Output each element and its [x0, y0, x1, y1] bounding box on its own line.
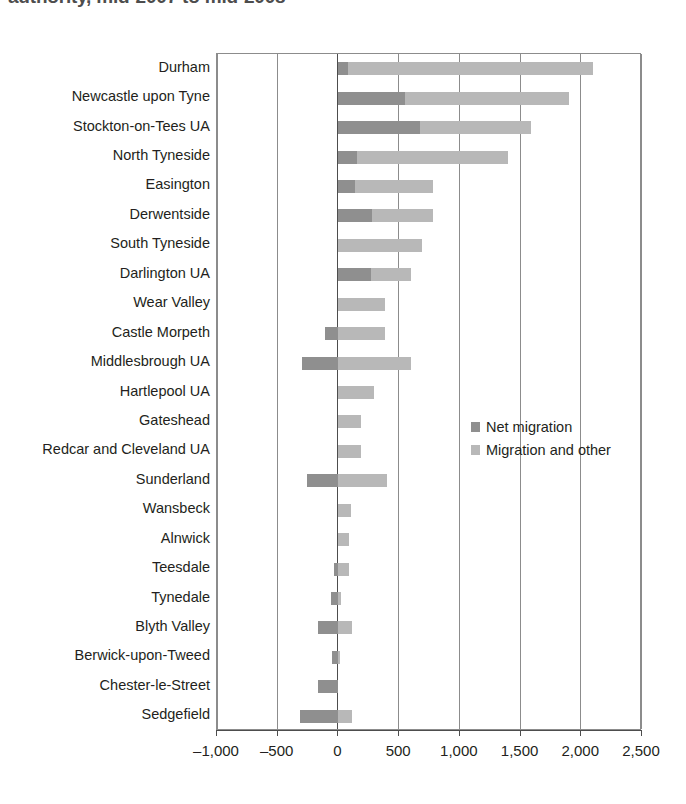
x-axis-tick-label: 1,000	[440, 742, 478, 759]
bar-segment-net-migration	[300, 710, 339, 723]
category-label: Berwick-upon-Tweed	[0, 647, 216, 663]
category-label: Derwentside	[0, 206, 216, 222]
category-label: Middlesbrough UA	[0, 353, 216, 369]
category-label: Redcar and Cleveland UA	[0, 441, 216, 457]
bar-segment-net-migration	[338, 209, 372, 222]
x-axis-tick-label: 500	[386, 742, 411, 759]
category-label: Stockton-on-Tees UA	[0, 118, 216, 134]
bar-segment-net-migration	[338, 62, 348, 75]
x-axis-tick	[641, 730, 642, 736]
legend: Net migrationMigration and other	[471, 419, 611, 465]
category-label: Newcastle upon Tyne	[0, 88, 216, 104]
category-label: Easington	[0, 176, 216, 192]
category-label: Gateshead	[0, 412, 216, 428]
bar-segment-migration-and-other	[338, 298, 384, 311]
category-label: Wear Valley	[0, 294, 216, 310]
legend-swatch-icon	[471, 445, 480, 455]
bar-segment-net-migration	[338, 268, 371, 281]
bar-segment-migration-and-other	[338, 151, 508, 164]
category-label: Darlington UA	[0, 265, 216, 281]
bar-segment-migration-and-other	[338, 239, 422, 252]
category-label: Castle Morpeth	[0, 324, 216, 340]
x-axis-tick-label: 2,000	[562, 742, 600, 759]
category-label: Durham	[0, 59, 216, 75]
category-label: Teesdale	[0, 559, 216, 575]
x-axis-tick-label: –1,000	[193, 742, 239, 759]
category-label: Tynedale	[0, 589, 216, 605]
plot-area	[216, 53, 641, 730]
bar-segment-migration-and-other	[338, 62, 593, 75]
legend-item-net-migration: Net migration	[471, 419, 611, 435]
bar-segment-net-migration	[302, 357, 338, 370]
bar-segment-migration-and-other	[338, 533, 349, 546]
legend-label: Migration and other	[486, 442, 611, 458]
x-axis-tick-label: 2,500	[622, 742, 660, 759]
legend-item-migration-and-other: Migration and other	[471, 442, 611, 458]
bar-segment-net-migration	[338, 92, 405, 105]
category-label: Blyth Valley	[0, 618, 216, 634]
gridline	[520, 54, 521, 729]
x-axis-line	[216, 730, 641, 731]
category-label: Wansbeck	[0, 500, 216, 516]
bar-segment-net-migration	[318, 680, 339, 693]
bar-segment-migration-and-other	[338, 415, 361, 428]
x-axis-tick-label: 1,500	[501, 742, 539, 759]
bar-segment-net-migration	[338, 180, 355, 193]
x-axis-tick-label: 0	[333, 742, 341, 759]
category-label: North Tyneside	[0, 147, 216, 163]
bar-segment-net-migration	[338, 151, 356, 164]
bar-chart: DurhamNewcastle upon TyneStockton-on-Tee…	[0, 0, 686, 804]
bar-segment-net-migration	[307, 474, 339, 487]
category-label: Sunderland	[0, 471, 216, 487]
gridline	[641, 54, 642, 729]
category-label: Hartlepool UA	[0, 383, 216, 399]
bar-segment-net-migration	[332, 651, 338, 664]
category-label: South Tyneside	[0, 235, 216, 251]
bar-segment-net-migration	[325, 327, 338, 340]
bar-segment-migration-and-other	[338, 504, 350, 517]
gridline	[217, 54, 218, 729]
legend-label: Net migration	[486, 419, 572, 435]
category-label: Chester-le-Street	[0, 677, 216, 693]
bar-segment-migration-and-other	[338, 386, 373, 399]
bar-segment-net-migration	[318, 621, 339, 634]
bar-segment-migration-and-other	[338, 445, 361, 458]
bar-segment-net-migration	[338, 121, 419, 134]
bar-segment-net-migration	[331, 592, 338, 605]
category-label: Alnwick	[0, 530, 216, 546]
category-axis-labels: DurhamNewcastle upon TyneStockton-on-Tee…	[0, 53, 210, 730]
gridline	[580, 54, 581, 729]
gridline	[277, 54, 278, 729]
x-axis-tick-label: –500	[260, 742, 293, 759]
legend-swatch-icon	[471, 422, 480, 432]
category-label: Sedgefield	[0, 706, 216, 722]
bar-segment-net-migration	[334, 563, 339, 576]
